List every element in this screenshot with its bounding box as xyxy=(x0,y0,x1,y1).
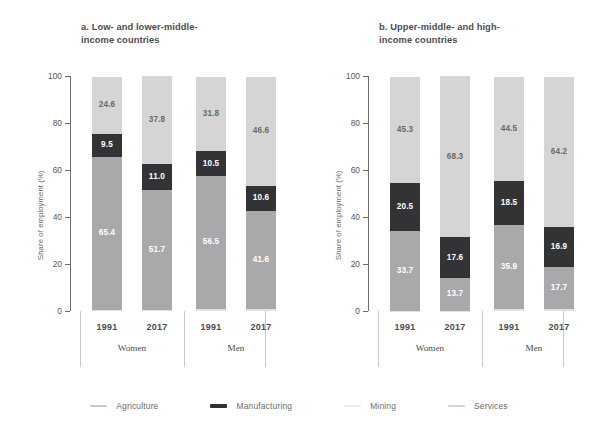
panel-b-y-tick-label: 60 xyxy=(351,165,360,175)
panel-b-bar-women-2017[interactable]: 0.213.717.668.3 xyxy=(440,76,470,311)
panel-a-y-tick xyxy=(65,264,70,265)
panel-a-y-tick-label: 0 xyxy=(57,306,62,316)
bar-segment-services[interactable]: 37.8 xyxy=(142,76,172,164)
category-separator xyxy=(378,311,379,367)
panel-b-category-axis: 1991201719912017WomenMen xyxy=(368,311,563,367)
bar-segment-value: 10.5 xyxy=(203,160,220,168)
bar-segment-value: 46.6 xyxy=(253,127,270,135)
panel-b-y-tick xyxy=(363,76,368,77)
bar-segment-mining[interactable]: 33.7 xyxy=(390,231,420,310)
legend-item-agriculture[interactable]: Agriculture xyxy=(90,401,158,411)
panel-b-bar-men-2017[interactable]: 1.017.716.964.2 xyxy=(544,76,574,311)
panel-b-bar-women-1991[interactable]: 0.233.720.545.3 xyxy=(390,76,420,311)
bar-segment-value: 13.7 xyxy=(447,290,464,298)
legend-swatch-services xyxy=(448,405,465,408)
x-axis-year-label: 2017 xyxy=(250,322,271,332)
category-separator xyxy=(184,311,185,367)
panel-a-y-axis-label: Share of employment (%) xyxy=(36,170,45,260)
bar-segment-manufacturing[interactable]: 18.5 xyxy=(494,181,524,224)
panel-b-bar-men-1991[interactable]: 0.935.918.544.5 xyxy=(494,76,524,311)
legend-item-manufacturing[interactable]: Manufacturing xyxy=(210,401,292,411)
bar-segment-services[interactable]: 45.3 xyxy=(390,77,420,183)
x-axis-group-label-women: Women xyxy=(118,343,146,353)
bar-segment-mining[interactable]: 17.7 xyxy=(544,267,574,309)
bar-segment-services[interactable]: 46.6 xyxy=(246,77,276,187)
panel-a-y-tick xyxy=(65,76,70,77)
panel-b-y-tick xyxy=(363,123,368,124)
panel-b-y-tick-label: 80 xyxy=(351,118,360,128)
x-axis-year-label: 2017 xyxy=(548,322,569,332)
category-separator xyxy=(265,311,266,367)
bar-segment-value: 37.8 xyxy=(149,116,166,124)
x-axis-group-label-women: Women xyxy=(416,343,444,353)
panel-a-bar-women-2017[interactable]: 0.351.711.037.8 xyxy=(142,76,172,311)
legend-label: Manufacturing xyxy=(236,401,292,411)
panel-a-y-tick-label: 100 xyxy=(48,71,62,81)
panel-a-y-tick xyxy=(65,123,70,124)
chart-legend: AgricultureManufacturingMiningServices xyxy=(0,396,598,416)
panel-a-y-tick-label: 80 xyxy=(53,118,62,128)
panel-a-y-tick xyxy=(65,170,70,171)
bar-segment-services[interactable]: 68.3 xyxy=(440,76,470,237)
bar-segment-manufacturing[interactable]: 9.5 xyxy=(92,134,122,156)
panel-b-y-tick xyxy=(363,170,368,171)
bar-segment-value: 24.6 xyxy=(99,101,116,109)
bar-segment-mining[interactable]: 41.6 xyxy=(246,211,276,309)
bar-segment-value: 33.7 xyxy=(397,267,414,275)
panel-a-y-tick-label: 60 xyxy=(53,165,62,175)
bar-segment-value: 18.5 xyxy=(501,199,518,207)
bar-segment-manufacturing[interactable]: 11.0 xyxy=(142,164,172,190)
chart-canvas: a. Low- and lower-middle- income countri… xyxy=(0,0,598,435)
panel-b-y-tick xyxy=(363,264,368,265)
panel-a-category-axis: 1991201719912017WomenMen xyxy=(70,311,265,367)
legend-label: Agriculture xyxy=(116,401,158,411)
panel-a-y-tick-label: 20 xyxy=(53,259,62,269)
legend-label: Services xyxy=(474,401,508,411)
panel-b-title: b. Upper-middle- and high- income countr… xyxy=(379,21,574,46)
x-axis-year-label: 1991 xyxy=(498,322,519,332)
category-separator xyxy=(80,311,81,367)
panel-a-bar-men-2017[interactable]: 1.041.610.646.6 xyxy=(246,76,276,311)
legend-swatch-mining xyxy=(344,405,361,408)
bar-segment-services[interactable]: 64.2 xyxy=(544,77,574,228)
bar-segment-value: 44.5 xyxy=(501,125,518,133)
x-axis-group-label-men: Men xyxy=(526,343,543,353)
bar-segment-mining[interactable]: 51.7 xyxy=(142,190,172,311)
legend-swatch-agriculture xyxy=(90,405,107,408)
category-separator xyxy=(482,311,483,367)
bar-segment-manufacturing[interactable]: 10.6 xyxy=(246,186,276,211)
bar-segment-value: 17.6 xyxy=(447,254,464,262)
bar-segment-mining[interactable]: 56.5 xyxy=(196,176,226,309)
panel-b-y-tick-label: 0 xyxy=(355,306,360,316)
bar-segment-services[interactable]: 44.5 xyxy=(494,77,524,182)
bar-segment-manufacturing[interactable]: 17.6 xyxy=(440,237,470,278)
panel-b-y-tick-label: 20 xyxy=(351,259,360,269)
bar-segment-manufacturing[interactable]: 20.5 xyxy=(390,183,420,231)
bar-segment-mining[interactable]: 65.4 xyxy=(92,157,122,311)
panel-a-title: a. Low- and lower-middle- income countri… xyxy=(81,21,271,46)
panel-a-bar-men-1991[interactable]: 0.956.510.531.8 xyxy=(196,76,226,311)
panel-b-plot-area: 0204060801000.233.720.545.30.213.717.668… xyxy=(368,76,563,311)
bar-segment-services[interactable]: 24.6 xyxy=(92,77,122,135)
legend-label: Mining xyxy=(370,401,396,411)
panel-a-plot-area: 0204060801000.365.49.524.60.351.711.037.… xyxy=(70,76,265,311)
x-axis-year-label: 1991 xyxy=(96,322,117,332)
bar-segment-value: 11.0 xyxy=(149,173,165,181)
bar-segment-value: 41.6 xyxy=(253,256,270,264)
legend-item-mining[interactable]: Mining xyxy=(344,401,396,411)
bar-segment-mining[interactable]: 13.7 xyxy=(440,278,470,310)
bar-segment-value: 35.9 xyxy=(501,263,518,271)
panel-a-bar-women-1991[interactable]: 0.365.49.524.6 xyxy=(92,76,122,311)
panel-a-y-tick xyxy=(65,217,70,218)
legend-item-services[interactable]: Services xyxy=(448,401,508,411)
bar-segment-mining[interactable]: 35.9 xyxy=(494,225,524,309)
legend-swatch-manufacturing xyxy=(210,404,227,407)
panel-a-y-tick-label: 40 xyxy=(53,212,62,222)
bar-segment-value: 16.9 xyxy=(551,243,568,251)
x-axis-year-label: 1991 xyxy=(394,322,415,332)
bar-segment-manufacturing[interactable]: 10.5 xyxy=(196,151,226,176)
bar-segment-value: 64.2 xyxy=(551,148,568,156)
bar-segment-value: 20.5 xyxy=(397,203,414,211)
bar-segment-services[interactable]: 31.8 xyxy=(196,77,226,152)
bar-segment-manufacturing[interactable]: 16.9 xyxy=(544,227,574,267)
